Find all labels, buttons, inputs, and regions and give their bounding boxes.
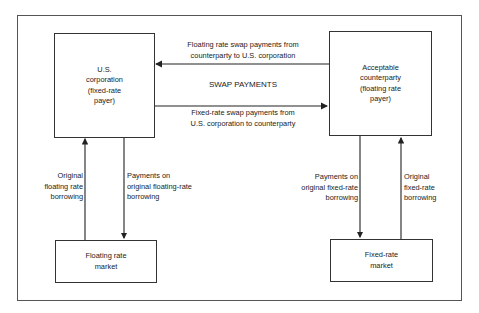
node-line: Floating rate: [85, 251, 126, 262]
node-line: market: [365, 261, 398, 272]
node-line: (floating rate: [360, 84, 401, 95]
us-corporation-node: U.S. corporation (fixed-rate payer): [54, 33, 155, 138]
label-line: original floating-rate: [127, 182, 192, 193]
node-line: payer): [360, 94, 401, 105]
label-line: Fixed-rate swap payments from: [160, 108, 326, 119]
label-line: borrowing: [270, 193, 358, 204]
node-line: payer): [86, 96, 123, 107]
counterparty-node: Acceptable counterparty (floating rate p…: [329, 31, 432, 136]
node-line: (fixed-rate: [86, 86, 123, 97]
fixed-swap-label: Fixed-rate swap payments from U.S. corpo…: [160, 108, 326, 129]
label-line: borrowing: [127, 192, 192, 203]
label-line: counterparty to U.S. corporation: [160, 51, 326, 62]
payments-floating-label: Payments on original floating-rate borro…: [127, 171, 192, 203]
floating-swap-label: Floating rate swap payments from counter…: [160, 40, 326, 61]
node-line: U.S.: [86, 65, 123, 76]
orig-floating-borrowing-label: Original floating rate borrowing: [20, 171, 83, 203]
label-line: Payments on: [127, 171, 192, 182]
label-line: borrowing: [404, 193, 436, 204]
node-line: Fixed-rate: [365, 250, 398, 261]
swap-payments-title: SWAP PAYMENTS: [160, 80, 326, 91]
node-line: Acceptable: [360, 63, 401, 74]
label-line: Original: [404, 172, 436, 183]
label-line: borrowing: [20, 192, 83, 203]
payments-fixed-label: Payments on original fixed-rate borrowin…: [270, 172, 358, 204]
node-line: corporation: [86, 75, 123, 86]
label-line: Original: [20, 171, 83, 182]
orig-fixed-borrowing-label: Original fixed-rate borrowing: [404, 172, 436, 204]
label-line: Payments on: [270, 172, 358, 183]
label-line: original fixed-rate: [270, 183, 358, 194]
node-line: counterparty: [360, 73, 401, 84]
label-line: fixed-rate: [404, 183, 436, 194]
label-line: U.S. corporation to counterparty: [160, 119, 326, 130]
label-line: Floating rate swap payments from: [160, 40, 326, 51]
fixed-rate-market-node: Fixed-rate market: [330, 239, 433, 282]
node-line: market: [85, 262, 126, 273]
label-line: floating rate: [20, 182, 83, 193]
floating-rate-market-node: Floating rate market: [55, 240, 157, 283]
